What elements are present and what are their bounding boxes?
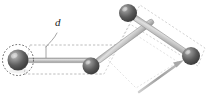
linkage-diagram-svg: [0, 0, 210, 96]
joint-apex-top[interactable]: [119, 4, 137, 22]
joint-base-left[interactable]: [8, 50, 30, 74]
direction-arrow: [139, 60, 184, 92]
joint-elbow-lower[interactable]: [83, 58, 100, 75]
offset-distance-label: d: [55, 17, 61, 28]
joint-end-right[interactable]: [182, 47, 200, 65]
figure-canvas: d: [0, 0, 210, 96]
linkage-links: [16, 11, 192, 64]
offset-dimension-d: [46, 33, 57, 60]
